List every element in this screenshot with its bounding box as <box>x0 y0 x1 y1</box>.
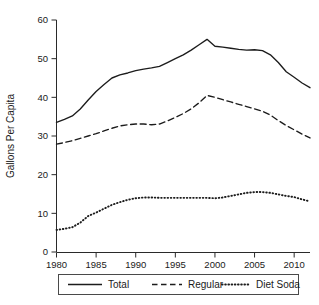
x-tick-label: 1990 <box>125 259 146 270</box>
y-axis-ticks: 0102030405060 <box>37 14 56 257</box>
x-tick-label: 2010 <box>284 259 305 270</box>
legend-label-regular: Regular <box>188 279 224 290</box>
y-tick-label: 50 <box>37 53 48 64</box>
chart-figure: 0102030405060 19801985199019952000200520… <box>0 0 319 305</box>
series-line-diet-soda <box>57 192 311 230</box>
x-tick-label: 1980 <box>46 259 67 270</box>
x-axis-ticks: 1980198519901995200020052010 <box>46 253 305 271</box>
y-tick-label: 10 <box>37 208 48 219</box>
legend: TotalRegularDiet Soda <box>68 279 300 290</box>
line-chart: 0102030405060 19801985199019952000200520… <box>0 0 319 305</box>
y-tick-label: 20 <box>37 169 48 180</box>
y-tick-label: 40 <box>37 92 48 103</box>
legend-label-total: Total <box>108 279 129 290</box>
x-tick-label: 2000 <box>204 259 225 270</box>
x-tick-label: 2005 <box>244 259 265 270</box>
x-tick-label: 1985 <box>86 259 107 270</box>
legend-label-diet-soda: Diet Soda <box>256 279 300 290</box>
y-tick-label: 30 <box>37 130 48 141</box>
series-line-total <box>57 39 311 122</box>
series-group <box>57 39 311 230</box>
series-line-regular <box>57 95 311 144</box>
y-axis-title: Gallons Per Capita <box>5 94 16 178</box>
y-tick-label: 60 <box>37 14 48 25</box>
y-tick-label: 0 <box>43 246 48 257</box>
x-tick-label: 1995 <box>165 259 186 270</box>
